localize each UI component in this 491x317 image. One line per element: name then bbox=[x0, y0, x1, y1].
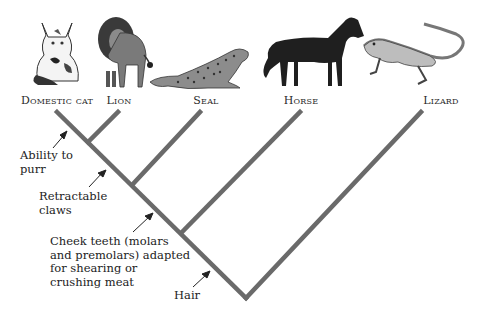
taxon-label-seal: Seal bbox=[193, 94, 218, 107]
taxon-label-lizard: Lizard bbox=[423, 94, 458, 107]
trait-label-ability-to-purr: Ability to purr bbox=[20, 149, 73, 176]
trait-label-retractable-claws: Retractable claws bbox=[39, 190, 107, 217]
branch-horse bbox=[182, 112, 300, 232]
branch-seal bbox=[132, 112, 200, 185]
taxon-label-horse: Horse bbox=[284, 94, 319, 107]
trait-label-hair: Hair bbox=[174, 289, 200, 303]
cladogram-diagram: Domestic cat Lion Seal Horse Lizard Abil… bbox=[0, 0, 491, 317]
branch-lion bbox=[88, 112, 118, 142]
trait-label-cheek-teeth: Cheek teeth (molars and premolars) adapt… bbox=[50, 235, 190, 289]
taxon-label-lion: Lion bbox=[107, 94, 132, 107]
taxon-label-domestic-cat: Domestic cat bbox=[21, 94, 93, 107]
